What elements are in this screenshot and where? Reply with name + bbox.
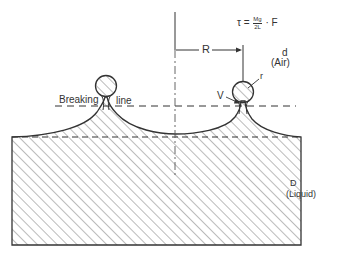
liquid-label: (Liquid) xyxy=(286,190,316,199)
formula-rhs: · F xyxy=(265,17,277,28)
volume-label: V xyxy=(217,91,224,101)
air-label: (Air) xyxy=(271,58,290,68)
ring-radius-label: R xyxy=(202,44,210,55)
breaking-label: Breaking xyxy=(59,95,98,105)
formula-fraction: Mg 2L xyxy=(253,16,261,31)
liquid-density-label: D xyxy=(290,179,297,188)
liquid-body xyxy=(12,97,301,245)
formula-denominator: 2L xyxy=(253,24,261,31)
wire-radius-label: r xyxy=(260,72,263,81)
line-label: line xyxy=(116,96,132,106)
ring-section-right xyxy=(233,82,254,103)
formula-numerator: Mg xyxy=(253,16,261,24)
formula-lhs: τ = xyxy=(237,17,250,28)
tension-formula: τ = Mg 2L · F xyxy=(237,16,278,31)
ring-detachment-diagram xyxy=(0,0,350,255)
ring-section-left xyxy=(96,76,117,97)
arrowhead-icon xyxy=(236,48,242,53)
